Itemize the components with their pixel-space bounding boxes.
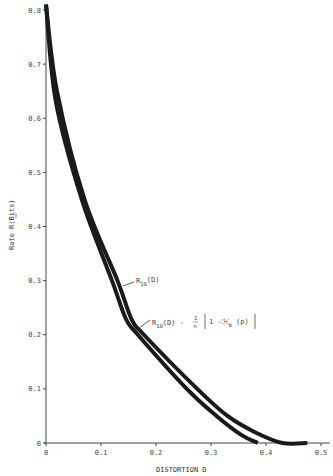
x-axis-title: DISTORTION D bbox=[156, 466, 207, 474]
x-tick-label: 0.2 bbox=[150, 449, 163, 457]
x-tick-label: 0 bbox=[44, 449, 48, 457]
x-tick-label: 0.4 bbox=[260, 449, 273, 457]
x-tick-label: 0.5 bbox=[315, 449, 328, 457]
fraction-numerator: 1 bbox=[194, 315, 197, 321]
fraction-denominator: n bbox=[194, 323, 197, 329]
chart: 00.10.20.30.40.50.60.70.8 00.10.20.30.40… bbox=[0, 0, 333, 476]
y-axis-title: Rate R(Bits) bbox=[8, 199, 16, 250]
bracket-content: 1 -ℋb(p) bbox=[209, 318, 249, 328]
x-tick-label: 0.1 bbox=[95, 449, 108, 457]
y-tick-label: 0.2 bbox=[28, 331, 41, 339]
y-tick-label: 0.8 bbox=[28, 7, 41, 15]
y-tick-label: 0 bbox=[37, 440, 41, 448]
x-tick-label: 0.3 bbox=[205, 449, 218, 457]
y-tick-label: 0.7 bbox=[28, 61, 41, 69]
annotation-r10-corrected: R10(D) - bbox=[152, 319, 184, 329]
annotation-r10: R10(D) bbox=[136, 276, 160, 287]
y-tick-label: 0.5 bbox=[28, 169, 41, 177]
y-ticks: 00.10.20.30.40.50.60.70.8 bbox=[28, 7, 46, 448]
y-tick-label: 0.6 bbox=[28, 115, 41, 123]
y-tick-label: 0.1 bbox=[28, 385, 41, 393]
annotation-leader-r10-corrected bbox=[139, 320, 150, 328]
annotation-leader-r10 bbox=[123, 282, 134, 286]
y-tick-label: 0.4 bbox=[28, 223, 41, 231]
y-tick-label: 0.3 bbox=[28, 277, 41, 285]
curve-r10-minus-correction bbox=[46, 5, 258, 443]
